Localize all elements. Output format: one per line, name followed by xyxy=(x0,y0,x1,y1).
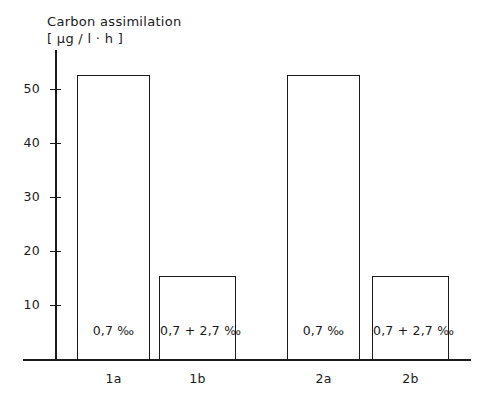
x-category-label-2b: 2b xyxy=(372,371,449,386)
bar-1a[interactable]: 0,7 ‰ xyxy=(77,75,150,360)
y-tick-label-40: 40 xyxy=(14,135,40,150)
bar-1b[interactable]: 0,7 + 2,7 ‰ xyxy=(159,276,236,360)
y-tick-label-30: 30 xyxy=(14,189,40,204)
bar-label-2b: 0,7 + 2,7 ‰ xyxy=(373,323,448,338)
y-tick-mark-30 xyxy=(50,197,61,198)
x-category-label-1a: 1a xyxy=(77,371,150,386)
x-category-label-1b: 1b xyxy=(159,371,236,386)
chart-root: Carbon assimilation [ µg / l · h ] 50 40… xyxy=(0,0,493,414)
y-tick-mark-20 xyxy=(50,251,61,252)
bar-label-1a: 0,7 ‰ xyxy=(78,323,149,338)
y-tick-mark-50 xyxy=(50,89,61,90)
plot-area: 50 40 30 20 10 0,7 ‰ 0,7 + 2,7 ‰ 0,7 ‰ xyxy=(0,0,493,414)
y-tick-mark-40 xyxy=(50,143,61,144)
bar-label-1b: 0,7 + 2,7 ‰ xyxy=(160,323,235,338)
y-tick-label-50: 50 xyxy=(14,81,40,96)
bar-2b[interactable]: 0,7 + 2,7 ‰ xyxy=(372,276,449,360)
x-category-label-2a: 2a xyxy=(287,371,360,386)
y-tick-label-10: 10 xyxy=(14,297,40,312)
y-tick-mark-10 xyxy=(50,305,61,306)
bar-label-2a: 0,7 ‰ xyxy=(288,323,359,338)
y-tick-label-20: 20 xyxy=(14,243,40,258)
y-axis-line xyxy=(55,50,57,361)
bar-2a[interactable]: 0,7 ‰ xyxy=(287,75,360,360)
